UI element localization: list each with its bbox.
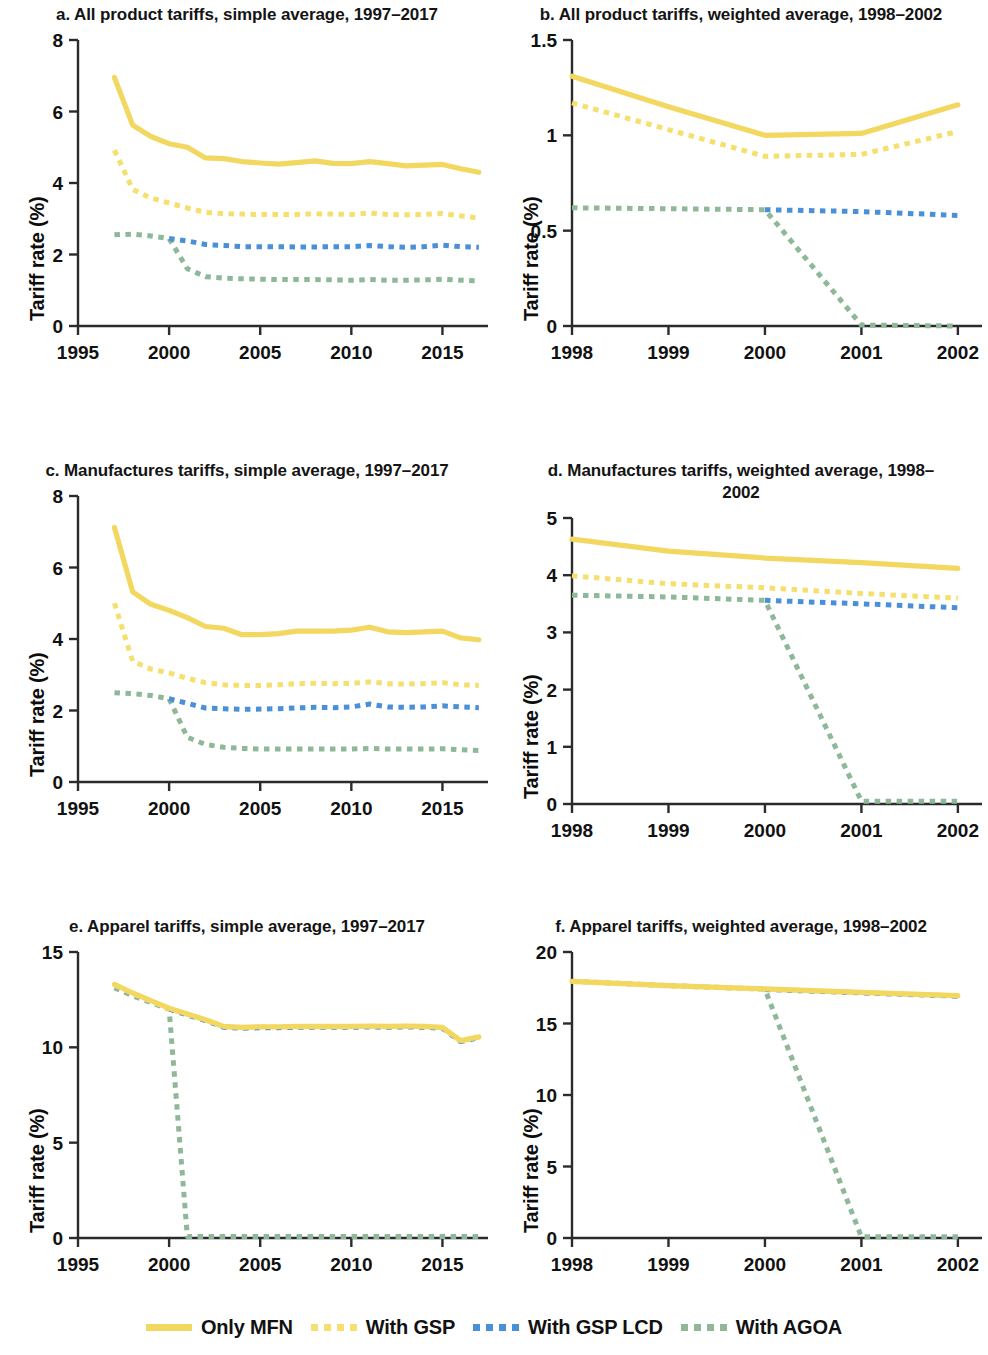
series-line-with-gsp [114, 603, 478, 685]
series-line-with-gsp-lcd [169, 238, 479, 247]
legend-label: With AGOA [736, 1316, 842, 1339]
legend-swatch-mfn [146, 1324, 192, 1331]
panel-e-y-axis-label: Tariff rate (%) [26, 1108, 49, 1232]
x-tick-label: 1999 [647, 1254, 689, 1275]
y-tick-label: 10 [42, 1037, 63, 1058]
panel-a-title: a. All product tariffs, simple average, … [0, 4, 494, 26]
y-tick-label: 5 [546, 1156, 557, 1177]
legend-label: With GSP [366, 1316, 455, 1339]
panel-f-title: f. Apparel tariffs, weighted average, 19… [494, 916, 988, 938]
y-tick-label: 1.5 [531, 30, 558, 51]
x-tick-label: 1995 [57, 342, 100, 363]
y-tick-label: 5 [52, 1132, 63, 1153]
legend-item-with-gsp-lcd[interactable]: With GSP LCD [473, 1316, 663, 1339]
series-line-with-gsp [572, 103, 958, 156]
y-tick-label: 0 [52, 772, 63, 793]
legend-swatch-agoa [681, 1324, 727, 1331]
x-tick-label: 2000 [744, 820, 786, 841]
y-tick-label: 3 [546, 622, 557, 643]
panel-c-plot: Tariff rate (%) 024681995200020052010201… [0, 482, 494, 822]
legend-item-with-agoa[interactable]: With AGOA [681, 1316, 842, 1339]
y-tick-label: 0 [546, 316, 557, 337]
panel-d-y-axis-label: Tariff rate (%) [520, 674, 543, 798]
panel-f-svg: 0510152019981999200020012002 [494, 938, 988, 1278]
y-tick-label: 1 [546, 125, 557, 146]
x-tick-label: 2002 [937, 342, 979, 363]
x-tick-label: 2005 [239, 798, 282, 819]
series-line-with-gsp-lcd [169, 698, 479, 709]
panel-e-plot: Tariff rate (%) 051015199520002005201020… [0, 938, 494, 1278]
x-tick-label: 2015 [421, 1254, 464, 1275]
y-tick-label: 5 [546, 508, 557, 529]
series-line-only-mfn [572, 539, 958, 568]
series-line-with-agoa [572, 595, 958, 801]
y-tick-label: 8 [52, 30, 63, 51]
x-tick-label: 1999 [647, 820, 689, 841]
panel-e: e. Apparel tariffs, simple average, 1997… [0, 916, 494, 1278]
series-line-only-mfn [114, 77, 478, 172]
legend-swatch-gsp-lcd [473, 1324, 519, 1331]
y-tick-label: 2 [546, 679, 557, 700]
x-tick-label: 2002 [937, 820, 979, 841]
panel-d-svg: 01234519981999200020012002 [494, 504, 988, 844]
panel-c-svg: 0246819952000200520102015 [0, 482, 494, 822]
x-tick-label: 1999 [647, 342, 689, 363]
legend-item-only-mfn[interactable]: Only MFN [146, 1316, 293, 1339]
panel-a: a. All product tariffs, simple average, … [0, 4, 494, 366]
y-tick-label: 0 [52, 1228, 63, 1249]
series-line-with-gsp-lcd [765, 209, 958, 215]
panel-b-y-axis-label: Tariff rate (%) [520, 196, 543, 320]
legend-swatch-gsp [311, 1324, 357, 1331]
x-tick-label: 2000 [148, 1254, 190, 1275]
panel-e-title: e. Apparel tariffs, simple average, 1997… [0, 916, 494, 938]
chart-legend: Only MFNWith GSPWith GSP LCDWith AGOA [0, 1316, 988, 1339]
series-line-with-agoa [572, 981, 958, 1237]
y-tick-label: 4 [52, 173, 63, 194]
tariff-rate-multi-panel-figure: a. All product tariffs, simple average, … [0, 0, 988, 1355]
y-tick-label: 10 [536, 1085, 557, 1106]
legend-item-with-gsp[interactable]: With GSP [311, 1316, 455, 1339]
y-tick-label: 2 [52, 700, 63, 721]
x-tick-label: 2000 [148, 342, 190, 363]
series-line-only-mfn [572, 76, 958, 135]
x-tick-label: 2010 [330, 342, 372, 363]
y-tick-label: 6 [52, 557, 63, 578]
panel-c-title: c. Manufactures tariffs, simple average,… [0, 460, 494, 482]
y-tick-label: 15 [42, 942, 64, 963]
x-tick-label: 2010 [330, 1254, 372, 1275]
panel-e-svg: 05101519952000200520102015 [0, 938, 494, 1278]
x-tick-label: 2005 [239, 1254, 282, 1275]
y-tick-label: 6 [52, 101, 63, 122]
panel-d-plot: Tariff rate (%) 012345199819992000200120… [494, 504, 988, 844]
y-tick-label: 0 [546, 794, 557, 815]
y-tick-label: 0 [546, 1228, 557, 1249]
x-tick-label: 2015 [421, 342, 464, 363]
panel-d-title: d. Manufactures tariffs, weighted averag… [494, 460, 988, 504]
panel-b: b. All product tariffs, weighted average… [494, 4, 988, 366]
x-tick-label: 2001 [840, 342, 883, 363]
x-tick-label: 1998 [551, 342, 593, 363]
legend-label: Only MFN [201, 1316, 293, 1339]
panel-b-plot: Tariff rate (%) 00.511.51998199920002001… [494, 26, 988, 366]
series-line-with-agoa [114, 234, 478, 281]
panel-f-plot: Tariff rate (%) 051015201998199920002001… [494, 938, 988, 1278]
x-tick-label: 2001 [840, 820, 883, 841]
x-tick-label: 2000 [744, 1254, 786, 1275]
y-tick-label: 20 [536, 942, 557, 963]
panel-b-title: b. All product tariffs, weighted average… [494, 4, 988, 26]
y-tick-label: 15 [536, 1013, 558, 1034]
panel-b-svg: 00.511.519981999200020012002 [494, 26, 988, 366]
x-tick-label: 1998 [551, 820, 593, 841]
x-tick-label: 2002 [937, 1254, 979, 1275]
series-line-with-agoa [572, 208, 958, 326]
y-tick-label: 1 [546, 736, 557, 757]
y-tick-label: 4 [546, 565, 557, 586]
panel-a-svg: 0246819952000200520102015 [0, 26, 494, 366]
series-line-only-mfn [114, 527, 478, 639]
x-tick-label: 1995 [57, 798, 100, 819]
y-tick-label: 4 [52, 629, 63, 650]
panel-c: c. Manufactures tariffs, simple average,… [0, 460, 494, 822]
x-tick-label: 1998 [551, 1254, 593, 1275]
panel-a-y-axis-label: Tariff rate (%) [26, 196, 49, 320]
panel-d: d. Manufactures tariffs, weighted averag… [494, 460, 988, 844]
